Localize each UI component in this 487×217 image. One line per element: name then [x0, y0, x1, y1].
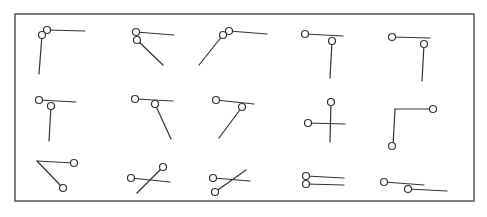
- joint-circle-icon: [132, 96, 139, 103]
- link-segment: [155, 104, 171, 139]
- linkage-glyph-2: [133, 29, 175, 66]
- link-segment: [136, 32, 174, 35]
- link-segment: [305, 34, 343, 36]
- joint-circle-icon: [152, 101, 159, 108]
- joint-circle-icon: [48, 103, 55, 110]
- joint-circle-icon: [303, 173, 310, 180]
- link-segment: [384, 182, 424, 185]
- joint-circle-icon: [60, 185, 67, 192]
- joint-circle-icon: [220, 32, 227, 39]
- link-segment: [330, 41, 332, 78]
- link-segment: [37, 161, 63, 188]
- joint-circle-icon: [36, 97, 43, 104]
- link-segment: [393, 109, 395, 146]
- joint-circle-icon: [213, 97, 220, 104]
- linkage-glyph-6: [36, 97, 77, 142]
- joint-circle-icon: [71, 160, 78, 167]
- link-segment: [137, 167, 163, 193]
- link-segment: [330, 102, 331, 142]
- linkage-glyph-15: [381, 179, 448, 193]
- link-segment: [39, 35, 42, 74]
- joint-circle-icon: [328, 99, 335, 106]
- link-segment: [216, 100, 254, 104]
- linkage-glyph-9: [305, 99, 346, 143]
- linkage-glyph-8: [213, 97, 255, 139]
- linkage-glyph-11: [37, 160, 78, 192]
- link-segment: [306, 184, 344, 185]
- glyph-layer: [36, 27, 448, 196]
- link-segment: [37, 161, 74, 163]
- joint-circle-icon: [381, 179, 388, 186]
- joint-circle-icon: [329, 38, 336, 45]
- joint-circle-icon: [421, 41, 428, 48]
- link-segment: [308, 123, 345, 124]
- linkage-glyph-14: [303, 173, 345, 188]
- linkage-glyph-4: [302, 31, 344, 79]
- joint-circle-icon: [128, 175, 135, 182]
- link-segment: [408, 189, 447, 191]
- link-segment: [137, 40, 163, 65]
- linkage-glyph-13: [210, 170, 251, 196]
- link-segment: [306, 176, 344, 178]
- joint-circle-icon: [430, 106, 437, 113]
- linkage-glyph-7: [132, 96, 174, 140]
- link-segment: [215, 170, 246, 192]
- link-segment: [39, 100, 76, 102]
- link-segment: [392, 37, 430, 38]
- joint-circle-icon: [239, 104, 246, 111]
- linkage-glyph-1: [39, 27, 86, 75]
- linkage-glyph-10: [389, 106, 437, 150]
- joint-circle-icon: [133, 29, 140, 36]
- link-segment: [49, 106, 51, 141]
- link-segment: [422, 44, 424, 81]
- linkage-glyph-5: [389, 34, 431, 82]
- linkage-glyph-3: [199, 28, 267, 66]
- joint-circle-icon: [134, 37, 141, 44]
- joint-circle-icon: [39, 32, 46, 39]
- joint-circle-icon: [210, 175, 217, 182]
- link-segment: [47, 30, 85, 31]
- joint-circle-icon: [405, 186, 412, 193]
- link-segment: [229, 31, 267, 34]
- diagram-canvas: [0, 0, 487, 217]
- joint-circle-icon: [389, 143, 396, 150]
- linkage-glyph-12: [128, 164, 171, 194]
- joint-circle-icon: [212, 189, 219, 196]
- link-segment: [219, 107, 242, 138]
- link-segment: [199, 35, 223, 65]
- joint-circle-icon: [389, 34, 396, 41]
- joint-circle-icon: [303, 181, 310, 188]
- joint-circle-icon: [160, 164, 167, 171]
- joint-circle-icon: [302, 31, 309, 38]
- joint-circle-icon: [305, 120, 312, 127]
